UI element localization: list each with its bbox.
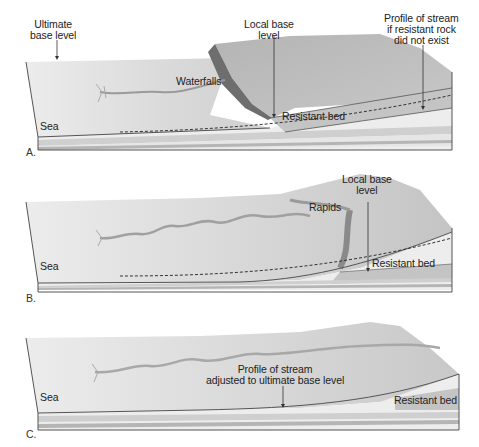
- label-waterfalls: Waterfalls: [176, 76, 221, 87]
- panel-letter-a: A.: [26, 146, 36, 158]
- label-local-base-level: Local base level: [244, 19, 294, 41]
- label-sea: Sea: [40, 121, 58, 132]
- label-line: level: [342, 185, 392, 196]
- label-resistant-bed: Resistant bed: [372, 258, 435, 269]
- label-local-base-level: Local base level: [342, 174, 392, 196]
- label-ultimate-base-level: Ultimate base level: [30, 19, 76, 41]
- arrow-ultimate-base-level: [55, 56, 59, 60]
- label-rapids: Rapids: [309, 202, 341, 213]
- label-resistant-bed: Resistant bed: [394, 395, 457, 406]
- label-line: adjusted to ultimate base level: [206, 375, 344, 386]
- label-line: level: [244, 30, 294, 41]
- label-line: base level: [30, 30, 76, 41]
- panel-c: Profile of stream adjusted to ultimate b…: [0, 300, 479, 447]
- label-sea: Sea: [40, 261, 58, 272]
- panel-letter-c: C.: [26, 428, 37, 440]
- label-line: did not exist: [384, 35, 459, 46]
- label-resistant-bed: Resistant bed: [282, 111, 345, 122]
- panel-a: Ultimate base level Local base level Pro…: [0, 0, 479, 160]
- label-profile-if-no-rock: Profile of stream if resistant rock did …: [384, 13, 459, 46]
- label-profile-adjusted: Profile of stream adjusted to ultimate b…: [206, 364, 344, 386]
- panel-b: Local base level Rapids Resistant bed Se…: [0, 160, 479, 300]
- block-diagram-b: [0, 160, 479, 300]
- label-sea: Sea: [40, 392, 58, 403]
